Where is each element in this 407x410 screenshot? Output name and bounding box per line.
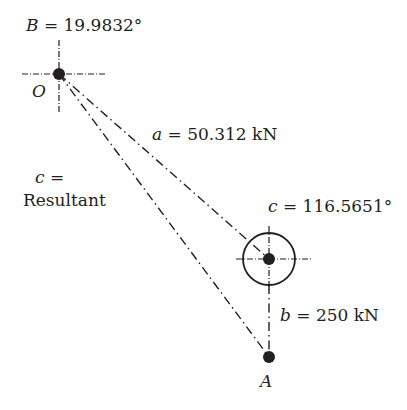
label-angle-B: B = 19.9832° [25,15,142,35]
point-O-dot [53,68,65,80]
label-resultant: Resultant [23,190,106,210]
label-force-b: b = 250 kN [280,305,379,325]
label-point-O: O [32,81,46,101]
label-point-A: A [258,371,272,391]
point-A-dot [263,351,275,363]
label-resultant-eq: c = [35,167,64,187]
force-diagram: B = 19.9832° O a = 50.312 kN c = Resulta… [0,0,407,410]
label-force-a: a = 50.312 kN [152,124,277,144]
line-c-resultant [59,74,269,357]
point-center-dot [263,253,275,265]
label-angle-c: c = 116.5651° [268,196,392,216]
line-a [59,74,269,259]
